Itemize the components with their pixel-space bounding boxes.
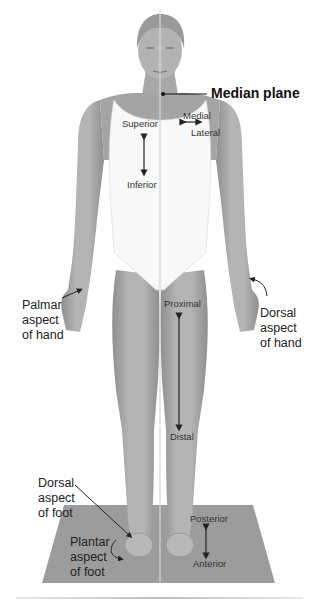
dorsal-aspect-foot-label: Dorsal aspect of foot (38, 476, 75, 521)
plantar-aspect-foot-label: Plantar aspect of foot (70, 535, 110, 580)
inferior-label: Inferior (127, 180, 157, 190)
posterior-label: Posterior (190, 514, 228, 524)
dorsal-aspect-hand-label: Dorsal aspect of hand (260, 306, 302, 351)
lateral-label: Lateral (191, 128, 220, 138)
superior-label: Superior (122, 119, 158, 129)
anatomical-position-diagram: Median plane Medial Superior Lateral Inf… (0, 0, 315, 605)
bottom-rule (16, 597, 303, 599)
distal-label: Distal (170, 432, 194, 442)
proximal-label: Proximal (164, 299, 201, 309)
anterior-label: Anterior (193, 559, 226, 569)
medial-label: Medial (183, 111, 211, 121)
palmar-aspect-hand-label: Palmar aspect of hand (22, 298, 64, 343)
median-plane-label: Median plane (211, 86, 300, 100)
